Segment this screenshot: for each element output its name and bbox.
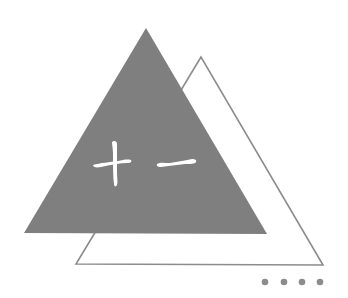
dot-1 — [262, 279, 269, 286]
dot-4 — [317, 279, 324, 286]
dot-3 — [299, 279, 306, 286]
ellipsis-dots — [262, 279, 324, 286]
dot-2 — [281, 279, 288, 286]
